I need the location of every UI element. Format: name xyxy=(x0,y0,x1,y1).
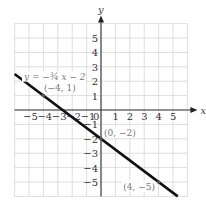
y-axis-label: y xyxy=(97,4,104,15)
x-tick-label: −4 xyxy=(37,111,52,122)
y-tick-label: 2 xyxy=(92,76,98,87)
point-label-4-neg5: (4, −5) xyxy=(123,182,155,192)
data-point xyxy=(99,137,103,141)
x-tick-label: 5 xyxy=(170,111,176,122)
x-tick-label: 3 xyxy=(141,111,147,122)
y-tick-label: 3 xyxy=(92,62,98,73)
y-tick-label: −5 xyxy=(83,177,98,188)
data-point xyxy=(157,180,161,184)
x-tick-label: 4 xyxy=(156,111,162,122)
data-point xyxy=(42,94,46,98)
point-label-0-neg2: (0, −2) xyxy=(104,128,136,138)
x-axis-arrow-icon xyxy=(190,107,197,113)
x-tick-label: −5 xyxy=(23,111,38,122)
y-tick-label: 1 xyxy=(92,91,98,102)
coordinate-plane: xy −5−4−3−2−1012345−5−4−3−2−112345 y = −… xyxy=(0,0,206,203)
x-axis-label: x xyxy=(200,105,206,116)
x-tick-label: 2 xyxy=(127,111,133,122)
y-tick-label: 4 xyxy=(92,47,98,58)
point-label-neg4-1: (−4, 1) xyxy=(44,83,76,93)
y-axis-arrow-icon xyxy=(98,16,104,23)
x-tick-label: −2 xyxy=(66,111,81,122)
x-tick-label: 1 xyxy=(112,111,118,122)
y-tick-label: −4 xyxy=(83,163,98,174)
equation-label: y = −¾ x − 2 xyxy=(23,72,86,82)
y-tick-label: 5 xyxy=(92,33,98,44)
y-tick-label: −3 xyxy=(83,148,98,159)
